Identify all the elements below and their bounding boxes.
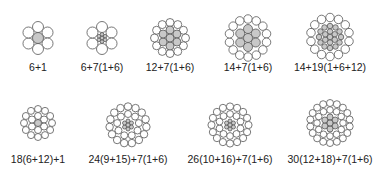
wire-circle [138,109,146,117]
wire-circle [134,127,141,134]
wire-circle [327,140,334,147]
wire-circle [326,13,335,22]
wire-circle [35,120,42,127]
wire-circle [166,50,174,58]
label-30-7: 30(12+18)+7(1+6) [288,153,373,165]
wire-circle [128,132,135,139]
label-6-7: 6+7(1+6) [81,61,124,73]
wire-circle [135,120,142,127]
wire-circle [114,120,121,127]
wire-circle [245,121,252,128]
wire-circle [120,139,128,147]
wire-circle [327,100,334,107]
wire-circle [87,27,98,38]
wire-circle [87,38,98,49]
wire-circle [225,30,234,39]
wire-circle [208,121,215,128]
wire-circle [327,45,333,51]
wire-circle [236,17,245,26]
label-14-19: 14+19(1+6+12) [294,61,366,73]
label-14-7: 14+7(1+6) [224,61,272,73]
wire-circle [97,22,108,33]
wire-circle [345,37,354,46]
wire-circle [338,113,345,120]
wire-circle [128,139,136,147]
wire-circle [327,107,334,114]
wire-circle [346,116,353,123]
strand-cross-section [23,22,53,55]
wire-circle [259,22,268,31]
wire-circle [49,120,56,127]
wire-circle [23,27,34,38]
wire-circle [244,53,253,62]
wire-circle [233,138,240,145]
wire-circle [227,133,234,140]
wire-circle [320,101,327,108]
wire-circle [320,108,327,115]
strand-cross-section [87,22,117,55]
wire-circle [327,34,333,40]
wire-circle [225,38,234,47]
wire-circle [314,120,321,127]
wire-circle [244,34,253,43]
wire-circle [151,34,159,42]
wire-circle [317,15,326,24]
wire-circle [345,28,354,37]
wire-circle [97,44,108,55]
strand-cross-section [106,103,150,147]
wire-circle [334,50,343,59]
wire-circle [333,138,340,145]
wire-circle [42,38,53,49]
wire-circle [124,103,132,111]
wire-circle [237,118,244,125]
wire-circle [108,131,116,139]
strand-cross-section [208,103,252,147]
wire-circle [327,120,333,126]
strand-cross-section [151,19,190,58]
wire-circle [327,23,333,29]
wire-circle [107,116,115,124]
wire-circle [100,36,104,40]
wire-circle [307,116,314,123]
wire-circle [132,113,139,120]
wire-circle [106,123,114,130]
wire-circle [21,120,28,127]
label-18-1: 18(6+12)+1 [11,153,65,165]
wire-circle [125,111,132,118]
wire-circle [126,123,130,127]
wire-circle [309,130,316,137]
wire-circle [106,38,117,49]
wire-circle [340,120,347,127]
wire-circle [346,123,353,130]
wire-circle [158,21,166,29]
wire-circle [220,113,227,120]
wire-circle [35,134,42,141]
wire-circle [227,111,234,118]
wire-circle [244,15,253,24]
wire-circle [219,104,226,111]
wire-circle [333,44,339,50]
wire-circle [315,126,322,133]
wire-circle [243,114,250,121]
wire-circle [226,103,233,110]
wire-circle [166,34,174,42]
wire-circle [338,34,344,40]
label-6-1: 6+1 [29,61,47,73]
wire-circle [143,123,151,130]
wire-circle [106,27,117,38]
wire-circle [117,113,124,120]
wire-circle [42,132,49,139]
wire-circle [322,25,328,31]
wire-circle [33,33,44,44]
wire-circle [33,22,44,33]
wire-circle [341,21,350,30]
wire-circle [307,123,314,130]
wire-circle [28,107,35,114]
wire-circle [326,52,335,61]
wire-circle [307,37,316,46]
wire-circle [135,136,143,144]
wire-circle [216,125,223,132]
wire-circle [115,127,122,134]
wire-circle [252,51,261,60]
wire-circle [35,106,42,113]
